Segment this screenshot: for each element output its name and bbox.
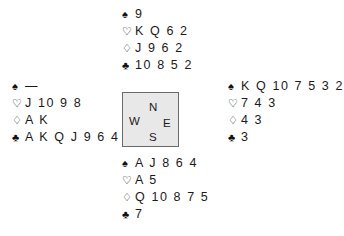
club-icon: ♣ — [228, 129, 241, 146]
club-icon: ♣ — [12, 129, 25, 146]
spade-icon: ♠ — [122, 155, 135, 172]
diamond-icon: ♢ — [122, 189, 135, 206]
heart-icon: ♡ — [12, 95, 25, 112]
compass-box: N W E S — [122, 92, 179, 147]
spade-icon: ♠ — [122, 6, 135, 23]
hand-north-clubs: 10 8 5 2 — [135, 57, 193, 74]
hand-south-diamonds-row: ♢ Q 10 8 7 5 — [122, 189, 209, 206]
hand-north-clubs-row: ♣ 10 8 5 2 — [122, 57, 193, 74]
spade-icon: ♠ — [228, 78, 241, 95]
hand-west-clubs: A K Q J 9 6 4 — [25, 129, 119, 146]
hand-east-diamonds-row: ♢ 4 3 — [228, 112, 344, 129]
hand-west-diamonds: A K — [25, 112, 49, 129]
hand-south: ♠ A J 8 6 4 ♡ A 5 ♢ Q 10 8 7 5 ♣ 7 — [122, 155, 209, 223]
compass-label-south: S — [149, 132, 157, 144]
compass-label-west: W — [129, 116, 140, 128]
hand-east-spades: K Q 10 7 5 3 2 — [241, 78, 344, 95]
diamond-icon: ♢ — [228, 112, 241, 129]
hand-south-hearts: A 5 — [135, 172, 158, 189]
hand-north-hearts: K Q 6 2 — [135, 23, 189, 40]
hand-south-diamonds: Q 10 8 7 5 — [135, 189, 209, 206]
hand-west-hearts-row: ♡ J 10 9 8 — [12, 95, 119, 112]
hand-west-spades-row: ♠ — — [12, 78, 119, 95]
club-icon: ♣ — [122, 206, 135, 223]
hand-east-hearts-row: ♡ 7 4 3 — [228, 95, 344, 112]
hand-north-diamonds: J 9 6 2 — [135, 40, 184, 57]
compass-label-east: E — [163, 118, 171, 130]
club-icon: ♣ — [122, 57, 135, 74]
hand-east-diamonds: 4 3 — [241, 112, 263, 129]
hand-west: ♠ — ♡ J 10 9 8 ♢ A K ♣ A K Q J 9 6 4 — [12, 78, 119, 146]
hand-east-clubs: 3 — [241, 129, 250, 146]
hand-west-spades: — — [25, 78, 39, 95]
hand-east-hearts: 7 4 3 — [241, 95, 277, 112]
hand-north-hearts-row: ♡ K Q 6 2 — [122, 23, 193, 40]
heart-icon: ♡ — [228, 95, 241, 112]
spade-icon: ♠ — [12, 78, 25, 95]
hand-east-spades-row: ♠ K Q 10 7 5 3 2 — [228, 78, 344, 95]
heart-icon: ♡ — [122, 172, 135, 189]
hand-south-hearts-row: ♡ A 5 — [122, 172, 209, 189]
hand-west-clubs-row: ♣ A K Q J 9 6 4 — [12, 129, 119, 146]
hand-south-spades: A J 8 6 4 — [135, 155, 198, 172]
hand-east-clubs-row: ♣ 3 — [228, 129, 344, 146]
hand-south-spades-row: ♠ A J 8 6 4 — [122, 155, 209, 172]
hand-west-diamonds-row: ♢ A K — [12, 112, 119, 129]
hand-south-clubs-row: ♣ 7 — [122, 206, 209, 223]
hand-north-diamonds-row: ♢ J 9 6 2 — [122, 40, 193, 57]
hand-north: ♠ 9 ♡ K Q 6 2 ♢ J 9 6 2 ♣ 10 8 5 2 — [122, 6, 193, 74]
hand-north-spades-row: ♠ 9 — [122, 6, 193, 23]
hand-north-spades: 9 — [135, 6, 144, 23]
hand-west-hearts: J 10 9 8 — [25, 95, 82, 112]
hand-east: ♠ K Q 10 7 5 3 2 ♡ 7 4 3 ♢ 4 3 ♣ 3 — [228, 78, 344, 146]
heart-icon: ♡ — [122, 23, 135, 40]
diamond-icon: ♢ — [122, 40, 135, 57]
hand-south-clubs: 7 — [135, 206, 144, 223]
compass-label-north: N — [149, 102, 157, 114]
diamond-icon: ♢ — [12, 112, 25, 129]
